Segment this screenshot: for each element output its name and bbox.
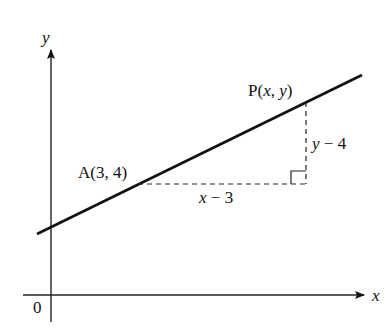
point-a-label: A(3, 4) bbox=[78, 163, 127, 182]
line-ap bbox=[37, 75, 362, 234]
diagram-canvas: y x 0 A(3, 4) P(x, y) y − 4 x − 3 bbox=[0, 0, 392, 331]
horizontal-leg-label: x − 3 bbox=[198, 188, 233, 207]
point-p-label: P(x, y) bbox=[248, 81, 292, 100]
y-axis-label: y bbox=[40, 28, 50, 47]
right-angle-marker bbox=[291, 171, 306, 184]
origin-label: 0 bbox=[33, 298, 42, 317]
x-axis-label: x bbox=[371, 286, 380, 305]
vertical-leg-label: y − 4 bbox=[310, 134, 347, 153]
